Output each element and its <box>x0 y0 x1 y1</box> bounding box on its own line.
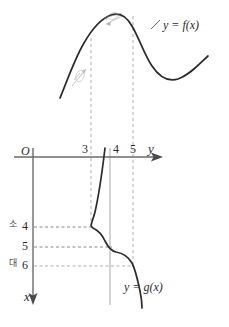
x-tick-annotation-min: 소 <box>9 220 17 229</box>
x-tick-annotation-max: 대 <box>9 259 17 268</box>
leader-line-f <box>151 20 160 29</box>
curve-label-f: y = f(x) <box>163 19 199 31</box>
y-tick-label-4: 4 <box>113 143 119 155</box>
math-figure: O 3 4 5 y x 소 4 5 대 6 y = f(x) y = g(x) <box>0 0 229 327</box>
figure-canvas <box>0 0 229 327</box>
origin-label: O <box>21 145 30 157</box>
y-tick-label-3: 3 <box>82 143 88 155</box>
x-axis-label: x <box>24 290 30 303</box>
x-tick-label-6: 6 <box>22 259 28 271</box>
curve-label-g: y = g(x) <box>124 281 163 293</box>
y-axis-label: y <box>148 142 154 155</box>
x-tick-label-5: 5 <box>22 240 28 252</box>
x-tick-label-4: 4 <box>22 220 28 232</box>
y-tick-label-5: 5 <box>130 143 136 155</box>
annotation-rising <box>72 69 86 86</box>
